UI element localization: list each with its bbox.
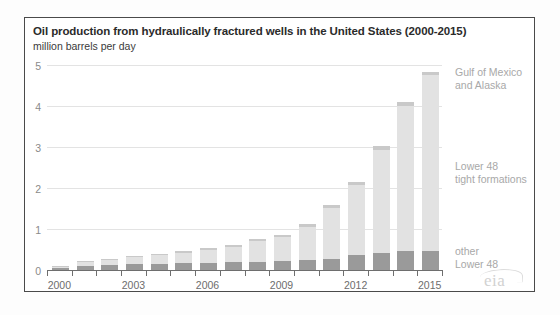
- y-axis-tick-label: 0: [35, 266, 41, 277]
- y-axis-tick-label: 1: [35, 225, 41, 236]
- bar-2015: [422, 72, 439, 271]
- legend-label-gulf-line1: Gulf of Mexico: [455, 66, 522, 79]
- bar-segment-tight: [274, 237, 291, 261]
- x-axis-tick-mark: [47, 271, 48, 276]
- gridline-y-5: [47, 65, 442, 66]
- x-axis-tick-label: 2012: [344, 279, 367, 291]
- x-axis-tick-mark: [121, 271, 122, 276]
- legend-label-tight-line1: Lower 48: [455, 160, 527, 173]
- bar-segment-other: [422, 251, 439, 271]
- bar-segment-tight: [373, 150, 390, 253]
- x-axis-tick-mark: [96, 271, 97, 276]
- chart-title: Oil production from hydraulically fractu…: [33, 25, 466, 37]
- bar-segment-tight: [348, 185, 365, 256]
- bar-2004: [151, 254, 168, 271]
- eia-logo: eia: [478, 270, 524, 292]
- legend-label-tight-line2: tight formations: [455, 173, 527, 186]
- bar-segment-other: [397, 251, 414, 272]
- bar-2006: [200, 248, 217, 271]
- x-axis-tick-label: 2003: [122, 279, 145, 291]
- y-axis-tick-label: 4: [35, 102, 41, 113]
- bar-2005: [175, 251, 192, 271]
- bar-2003: [126, 256, 143, 271]
- x-axis-tick-mark: [417, 271, 418, 276]
- bar-2014: [397, 102, 414, 271]
- plot-area: 012345: [47, 66, 442, 271]
- bar-2011: [323, 205, 340, 271]
- x-axis-tick-mark: [294, 271, 295, 276]
- x-axis-tick-label: 2015: [418, 279, 441, 291]
- x-axis-tick-mark: [393, 271, 394, 276]
- eia-logo-text: eia: [484, 271, 505, 291]
- bar-segment-other: [348, 255, 365, 271]
- legend-label-other-line1: other: [455, 245, 498, 258]
- x-axis-tick-mark: [72, 271, 73, 276]
- x-axis-tick-mark: [319, 271, 320, 276]
- bar-2007: [225, 245, 242, 271]
- legend-label-gulf-line2: and Alaska: [455, 79, 522, 92]
- x-axis-tick-label: 2000: [48, 279, 71, 291]
- bar-segment-tight: [249, 241, 266, 262]
- bar-segment-tight: [151, 255, 168, 264]
- bar-segment-tight: [225, 247, 242, 263]
- bar-2013: [373, 146, 390, 271]
- x-axis-tick-mark: [343, 271, 344, 276]
- bar-2008: [249, 239, 266, 271]
- legend-label-lower-48-tight-formations: Lower 48 tight formations: [455, 160, 527, 185]
- x-axis-tick-mark: [220, 271, 221, 276]
- x-axis-tick-mark: [146, 271, 147, 276]
- y-axis-tick-label: 2: [35, 184, 41, 195]
- bar-segment-tight: [175, 253, 192, 264]
- x-axis-tick-mark: [170, 271, 171, 276]
- x-axis-tick-mark: [368, 271, 369, 276]
- bar-2010: [299, 224, 316, 271]
- x-axis-tick-mark: [269, 271, 270, 276]
- y-axis-tick-label: 5: [35, 61, 41, 72]
- legend-label-gulf-of-mexico-and-alaska: Gulf of Mexico and Alaska: [455, 66, 522, 91]
- bar-segment-other: [373, 253, 390, 271]
- bar-segment-tight: [397, 106, 414, 251]
- x-axis-tick-mark: [195, 271, 196, 276]
- bar-2009: [274, 235, 291, 271]
- gridline-y-4: [47, 106, 442, 107]
- bar-segment-tight: [200, 250, 217, 263]
- chart-subtitle: million barrels per day: [33, 40, 136, 52]
- x-axis-tick-label: 2006: [196, 279, 219, 291]
- x-axis-tick-mark: [442, 271, 443, 276]
- x-axis-tick-mark: [245, 271, 246, 276]
- bar-segment-tight: [422, 75, 439, 251]
- bar-segment-tight: [299, 227, 316, 261]
- chart-screenshot: Oil production from hydraulically fractu…: [0, 0, 560, 315]
- legend-label-other-line2: Lower 48: [455, 258, 498, 271]
- legend-label-other-lower-48: other Lower 48: [455, 245, 498, 270]
- bar-2012: [348, 182, 365, 271]
- bar-segment-tight: [323, 208, 340, 259]
- y-axis-tick-label: 3: [35, 143, 41, 154]
- bar-segment-tight: [126, 257, 143, 264]
- x-axis-tick-label: 2009: [270, 279, 293, 291]
